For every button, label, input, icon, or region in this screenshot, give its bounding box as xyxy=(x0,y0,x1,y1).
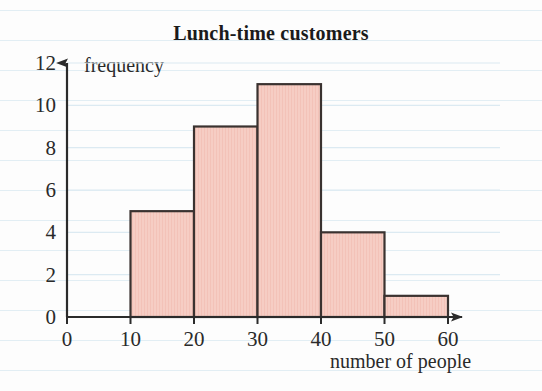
x-tick-label: 50 xyxy=(365,327,405,352)
y-tick-label: 6 xyxy=(22,178,56,203)
y-tick-label: 0 xyxy=(22,305,56,330)
y-tick-label: 10 xyxy=(22,93,56,118)
y-tick-label: 8 xyxy=(22,135,56,160)
x-tick-label: 20 xyxy=(174,327,214,352)
chart-page: Lunch-time customers frequency number of… xyxy=(0,0,542,391)
x-tick-label: 0 xyxy=(47,327,87,352)
histogram-bar xyxy=(258,84,322,317)
y-tick-label: 4 xyxy=(22,220,56,245)
histogram-bar xyxy=(131,211,195,317)
x-tick-label: 30 xyxy=(238,327,278,352)
x-tick-label: 40 xyxy=(301,327,341,352)
histogram-bar xyxy=(385,296,449,317)
x-tick-label: 60 xyxy=(428,327,468,352)
bars-group xyxy=(131,84,449,317)
histogram-bar xyxy=(321,232,385,317)
y-tick-label: 12 xyxy=(22,51,56,76)
y-tick-label: 2 xyxy=(22,262,56,287)
x-tick-label: 10 xyxy=(111,327,151,352)
histogram-bar xyxy=(194,127,258,318)
